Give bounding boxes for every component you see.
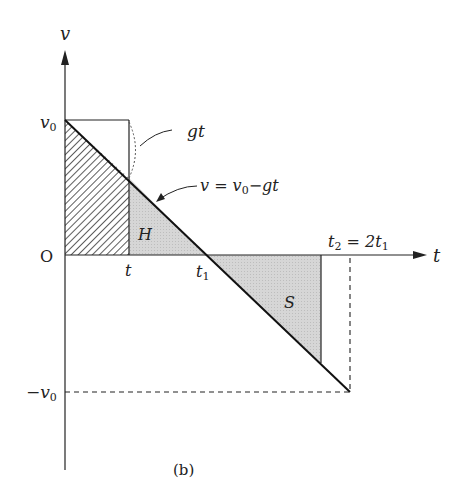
origin-label: O (40, 247, 53, 266)
x-axis-arrow-icon (413, 251, 427, 259)
x-axis-label: t (433, 245, 441, 266)
gt-brace (129, 122, 136, 178)
t2-label: t2 = 2t1 (328, 232, 389, 253)
neg-v0-label: −v0 (26, 382, 57, 404)
y-axis-label: v (60, 23, 70, 44)
figure-caption: (b) (173, 461, 194, 479)
gt-label: gt (187, 121, 205, 141)
velocity-time-diagram: v t O v0 −v0 t t1 t2 = 2t1 gt v = v0−gt … (0, 0, 460, 497)
region-s-label: S (284, 293, 295, 312)
line-equation-label: v = v0−gt (200, 176, 279, 197)
v0-label: v0 (40, 112, 57, 134)
t-tick-label: t (125, 261, 132, 280)
hatched-region (65, 120, 129, 255)
gt-pointer (140, 130, 172, 146)
region-h-label: H (137, 225, 153, 244)
t1-tick-label: t1 (196, 262, 209, 283)
equation-pointer-arrowhead-icon (156, 193, 165, 202)
y-axis-arrow-icon (61, 50, 69, 65)
